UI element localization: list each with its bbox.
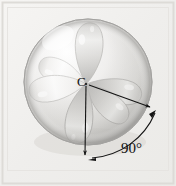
- bond-angle-label: 90°: [121, 141, 142, 156]
- center-atom-label: C: [77, 75, 86, 88]
- orbital-illustration: [0, 0, 176, 186]
- orbital-figure: C 90°: [0, 0, 176, 186]
